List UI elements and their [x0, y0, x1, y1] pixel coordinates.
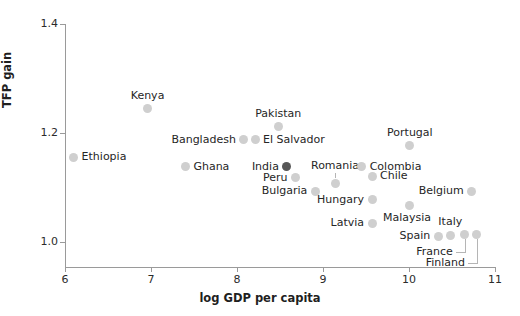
x-tick-mark [151, 267, 152, 272]
y-tick-label: 1.4 [18, 18, 58, 29]
y-tick-label: 1.2 [18, 127, 58, 138]
point-label: Portugal [387, 127, 433, 139]
x-tick-label: 6 [45, 274, 85, 286]
data-point[interactable] [368, 195, 377, 204]
y-tick-label: 1.0 [18, 236, 58, 247]
x-tick-mark [237, 267, 238, 272]
leader-line [468, 263, 478, 264]
point-label: Finland [426, 257, 465, 269]
point-label: Kenya [131, 90, 165, 102]
x-tick-mark [409, 267, 410, 272]
x-tick-mark [323, 267, 324, 272]
point-label: Latvia [331, 217, 365, 229]
x-tick-label: 10 [389, 274, 429, 286]
y-axis-title: TFP gain [0, 52, 14, 108]
point-label: Peru [263, 172, 288, 184]
point-label: Chile [380, 170, 408, 182]
x-tick-label: 7 [131, 274, 171, 286]
point-label: Spain [400, 230, 431, 242]
data-point[interactable] [368, 172, 377, 181]
point-label: Pakistan [255, 108, 301, 120]
leader-line [477, 239, 478, 263]
data-point[interactable] [251, 135, 260, 144]
point-label: El Salvador [263, 134, 325, 146]
point-label: Malaysia [383, 212, 431, 224]
data-point[interactable] [69, 153, 78, 162]
point-label: Romania [311, 160, 359, 172]
x-axis-title: log GDP per capita [0, 291, 520, 305]
scatter-chart: 1.01.21.4 67891011 TFP gain log GDP per … [0, 0, 520, 316]
point-label: Bangladesh [171, 134, 236, 146]
data-point[interactable] [181, 162, 190, 171]
x-tick-mark [495, 267, 496, 272]
point-label: Hungary [317, 194, 364, 206]
data-point[interactable] [368, 219, 377, 228]
point-label: Italy [438, 216, 462, 228]
data-point[interactable] [274, 122, 283, 131]
x-tick-label: 11 [475, 274, 515, 286]
point-label: Belgium [419, 185, 464, 197]
data-point[interactable] [446, 231, 455, 240]
x-tick-label: 8 [217, 274, 257, 286]
x-tick-label: 9 [303, 274, 343, 286]
leader-line [465, 239, 466, 252]
data-point[interactable] [467, 187, 476, 196]
leader-line [456, 252, 466, 253]
data-point[interactable] [331, 179, 340, 188]
point-label: Ghana [193, 161, 229, 173]
x-tick-mark [65, 267, 66, 272]
point-label: Bulgaria [262, 185, 308, 197]
data-point[interactable] [405, 201, 414, 210]
leader-line [335, 173, 336, 178]
data-point[interactable] [434, 232, 443, 241]
point-label: Ethiopia [82, 151, 127, 163]
